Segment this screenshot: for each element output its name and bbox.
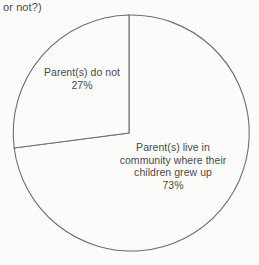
pie-label-do-not-line-1: Parent(s) do not bbox=[33, 66, 131, 79]
pie-chart-graphic bbox=[0, 0, 259, 265]
pie-label-live-in-community-line-2: community where their bbox=[110, 154, 236, 167]
pie-label-do-not: Parent(s) do not 27% bbox=[33, 66, 131, 91]
pie-label-live-in-community: Parent(s) live in community where their … bbox=[110, 141, 236, 191]
pie-label-do-not-value: 27% bbox=[33, 79, 131, 92]
pie-label-live-in-community-line-1: Parent(s) live in bbox=[110, 141, 236, 154]
pie-label-live-in-community-value: 73% bbox=[110, 179, 236, 192]
pie-chart-figure: or not?) Parent(s) do not 27% Parent(s) … bbox=[0, 0, 259, 265]
pie-label-live-in-community-line-3: children grew up bbox=[110, 166, 236, 179]
